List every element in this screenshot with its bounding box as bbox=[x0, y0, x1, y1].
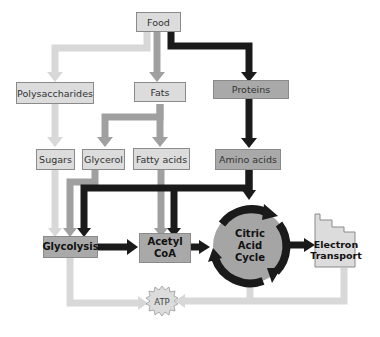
node-glycerol-label: Glycerol bbox=[84, 154, 123, 165]
node-glycolysis-label: Glycolysis bbox=[42, 241, 98, 253]
node-electron-line2: Transport bbox=[310, 250, 362, 261]
node-citric-line3: Cycle bbox=[235, 252, 265, 264]
node-citric-acid-cycle: Citric Acid Cycle bbox=[224, 226, 276, 266]
node-proteins-label: Proteins bbox=[232, 84, 270, 95]
node-polysaccharides-label: Polysaccharides bbox=[17, 88, 93, 99]
node-fats-label: Fats bbox=[150, 87, 169, 98]
node-fatty-acids: Fatty acids bbox=[133, 148, 190, 170]
node-food-label: Food bbox=[147, 17, 170, 28]
node-polysaccharides: Polysaccharides bbox=[16, 82, 94, 104]
node-atp: ATP bbox=[148, 294, 176, 310]
node-acetyl-coa-line2: CoA bbox=[154, 248, 176, 260]
node-proteins: Proteins bbox=[213, 80, 289, 99]
node-acetyl-coa: Acetyl CoA bbox=[139, 233, 191, 263]
node-food: Food bbox=[136, 12, 181, 32]
node-sugars: Sugars bbox=[36, 149, 75, 170]
node-acetyl-coa-line1: Acetyl bbox=[147, 236, 182, 248]
node-sugars-label: Sugars bbox=[39, 154, 72, 165]
node-amino-acids: Amino acids bbox=[215, 149, 281, 170]
node-glycolysis: Glycolysis bbox=[43, 236, 98, 258]
node-citric-line2: Acid bbox=[238, 240, 262, 252]
node-electron-transport: Electron Transport bbox=[315, 236, 357, 264]
node-amino-acids-label: Amino acids bbox=[219, 154, 277, 165]
node-citric-line1: Citric bbox=[235, 228, 265, 240]
node-glycerol: Glycerol bbox=[82, 149, 125, 170]
node-fats: Fats bbox=[134, 82, 186, 102]
node-atp-label: ATP bbox=[154, 297, 169, 307]
node-fatty-acids-label: Fatty acids bbox=[136, 154, 187, 165]
node-electron-line1: Electron bbox=[314, 239, 358, 250]
arrow-food-polysaccharides bbox=[55, 32, 147, 73]
